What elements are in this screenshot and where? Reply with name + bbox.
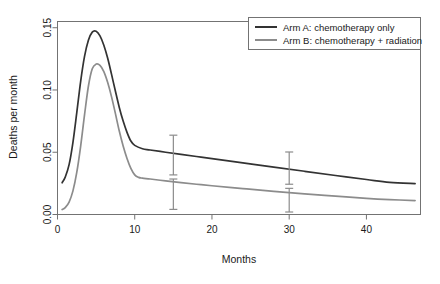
y-tick-label: 0.05 — [42, 142, 53, 162]
chart-figure: 0.000.050.100.15 010203040 Months Deaths… — [0, 0, 440, 284]
chart-legend: Arm A: chemotherapy only Arm B: chemothe… — [249, 18, 423, 50]
y-tick-label: 0.10 — [42, 80, 53, 100]
x-tick-label: 40 — [361, 224, 373, 235]
x-tick-label: 30 — [284, 224, 296, 235]
legend-label-arm-b: Arm B: chemotherapy + radiation — [283, 35, 422, 46]
legend-label-arm-a: Arm A: chemotherapy only — [283, 22, 395, 33]
x-tick-label: 10 — [129, 224, 141, 235]
x-axis-title: Months — [222, 253, 256, 265]
y-tick-label: 0.15 — [42, 18, 53, 38]
y-tick-label: 0.00 — [42, 204, 53, 224]
x-tick-label: 0 — [55, 224, 61, 235]
y-axis-title: Deaths per month — [7, 75, 19, 159]
x-tick-label: 20 — [206, 224, 218, 235]
